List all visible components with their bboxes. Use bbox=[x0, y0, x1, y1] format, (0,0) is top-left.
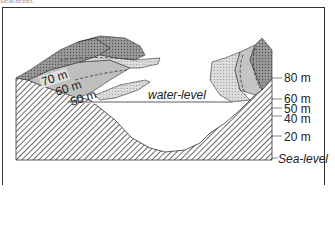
scale-label-40: 40 m bbox=[284, 113, 311, 125]
water-level-label: water-level bbox=[148, 89, 206, 101]
sea-level-label: Sea-level bbox=[278, 153, 328, 165]
scale-label-80: 80 m bbox=[284, 72, 311, 84]
scale-label-20: 20 m bbox=[284, 131, 311, 143]
